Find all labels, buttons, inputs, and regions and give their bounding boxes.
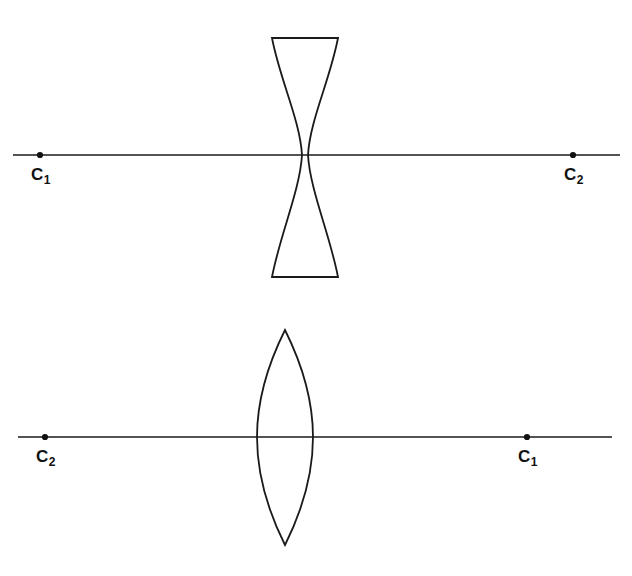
lens-diagram-figure: C1 C2 C2 C1 [0, 0, 632, 576]
label-upper-c1-base: C [31, 165, 43, 184]
label-lower-c1-base: C [518, 447, 530, 466]
lower-center-point-c1 [524, 434, 530, 440]
label-upper-c1-subscript: 1 [44, 173, 51, 187]
label-upper-c1: C1 [31, 166, 50, 183]
label-lower-c1-subscript: 1 [531, 455, 538, 469]
label-upper-c2: C2 [564, 166, 583, 183]
label-lower-c2-subscript: 2 [49, 455, 56, 469]
upper-center-point-c2 [570, 152, 576, 158]
label-lower-c2-base: C [36, 447, 48, 466]
diagram-canvas [0, 0, 632, 576]
upper-diagram-group [13, 38, 620, 277]
label-lower-c2: C2 [36, 448, 55, 465]
label-upper-c2-subscript: 2 [577, 173, 584, 187]
lower-diagram-group [18, 330, 612, 545]
biconcave-lens-outline [272, 38, 338, 277]
lower-center-point-c2 [42, 434, 48, 440]
upper-center-point-c1 [37, 152, 43, 158]
label-lower-c1: C1 [518, 448, 537, 465]
label-upper-c2-base: C [564, 165, 576, 184]
